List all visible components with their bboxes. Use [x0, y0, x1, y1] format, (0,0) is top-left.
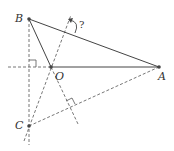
point-b: [27, 17, 31, 21]
geometry-diagram: B O A C ?: [0, 0, 174, 151]
segment-ca-dashed: [29, 67, 159, 126]
label-unknown-angle: ?: [79, 19, 84, 30]
label-a: A: [157, 70, 166, 83]
right-angle-mark-1: [29, 60, 36, 67]
diagram-svg: B O A C ?: [0, 0, 174, 151]
point-c: [27, 124, 31, 128]
label-o: O: [55, 70, 64, 83]
label-b: B: [14, 12, 23, 25]
segment-ab: [29, 19, 159, 67]
label-c: C: [15, 119, 24, 132]
point-a: [157, 65, 161, 69]
point-o: [49, 65, 53, 69]
